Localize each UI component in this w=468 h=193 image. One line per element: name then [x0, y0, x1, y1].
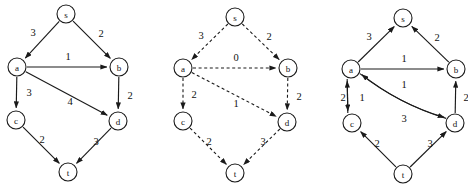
- node-graph-3-s[interactable]: s: [394, 9, 412, 27]
- edge-weight-graph-1-a-d: 4: [67, 96, 73, 107]
- edge-graph-1-a-to-c: [16, 77, 17, 108]
- edge-graph-2-d-to-t: [244, 129, 280, 164]
- edge-weight-graph-3-t-d: 3: [427, 138, 432, 149]
- node-label-b: b: [117, 63, 122, 73]
- graph-figure: 32134223320212233212113223 sabcdtsabcdts…: [0, 0, 468, 193]
- node-label-d: d: [285, 118, 290, 128]
- node-graph-1-t[interactable]: t: [59, 163, 77, 181]
- edge-weight-graph-3-a-d: 3: [401, 113, 406, 124]
- edge-weight-graph-2-a-b: 0: [233, 52, 238, 63]
- node-label-d: d: [453, 119, 458, 129]
- node-graph-2-c[interactable]: c: [174, 112, 192, 130]
- edge-graph-1-s-to-b: [73, 21, 110, 58]
- edge-graph-1-a-to-d: [26, 72, 107, 116]
- edge-graph-3-a-to-s: [358, 27, 394, 62]
- node-label-d: d: [116, 117, 121, 127]
- edge-graph-2-s-to-a: [192, 24, 228, 59]
- node-label-a: a: [349, 65, 353, 75]
- edge-graph-1-b-to-d: [118, 77, 119, 109]
- edge-weight-graph-2-d-t: 3: [260, 136, 265, 147]
- node-label-c: c: [350, 119, 354, 129]
- edge-graph-3-b-to-s: [412, 26, 449, 62]
- edges-layer: [16, 21, 456, 167]
- edge-weight-graph-1-s-b: 2: [98, 28, 103, 39]
- edge-weight-graph-3-a-b: 1: [401, 53, 406, 64]
- node-label-c: c: [14, 116, 18, 126]
- edge-weights-layer: 32134223320212233212113223: [26, 27, 468, 149]
- node-label-b: b: [454, 65, 459, 75]
- node-graph-3-d[interactable]: d: [446, 114, 464, 132]
- edge-weight-graph-2-a-c: 2: [191, 89, 196, 100]
- edge-weight-graph-1-b-d: 2: [127, 90, 132, 101]
- edge-weight-graph-1-d-t: 3: [93, 136, 98, 147]
- edge-weight-graph-3-a-c: 1: [359, 92, 364, 103]
- edge-graph-3-a-to-c: [347, 79, 348, 111]
- node-graph-3-b[interactable]: b: [447, 60, 465, 78]
- node-label-b: b: [286, 64, 291, 74]
- node-graph-2-t[interactable]: t: [226, 164, 244, 182]
- node-graph-2-a[interactable]: a: [174, 59, 192, 77]
- node-graph-2-d[interactable]: d: [278, 113, 296, 131]
- edge-weight-graph-2-s-a: 3: [198, 30, 203, 41]
- edge-weight-graph-1-a-c: 3: [26, 87, 31, 98]
- node-label-c: c: [181, 117, 185, 127]
- node-label-a: a: [181, 64, 185, 74]
- edge-graph-2-b-to-d: [287, 78, 288, 110]
- node-graph-2-s[interactable]: s: [226, 8, 244, 26]
- node-label-s: s: [64, 10, 68, 20]
- edge-weight-graph-3-c-a: 2: [340, 92, 345, 103]
- edge-weight-graph-2-b-d: 2: [296, 91, 301, 102]
- node-graph-1-b[interactable]: b: [110, 58, 128, 76]
- graph-canvas: 32134223320212233212113223 sabcdtsabcdts…: [0, 0, 468, 193]
- edge-graph-3-d-to-b: [455, 81, 456, 113]
- node-label-a: a: [15, 63, 19, 73]
- node-label-s: s: [233, 13, 237, 23]
- edge-weight-graph-1-a-b: 1: [65, 51, 70, 62]
- edge-graph-2-a-to-d: [192, 73, 276, 117]
- node-graph-1-d[interactable]: d: [109, 112, 127, 130]
- node-graph-2-b[interactable]: b: [279, 59, 297, 77]
- edge-weight-graph-3-d-b: 2: [463, 92, 468, 103]
- node-label-s: s: [401, 14, 405, 24]
- edge-weight-graph-3-b-s: 2: [434, 32, 439, 43]
- nodes-layer: sabcdtsabcdtsabcdt: [7, 5, 465, 183]
- node-graph-3-t[interactable]: t: [394, 165, 412, 183]
- node-graph-3-a[interactable]: a: [342, 60, 360, 78]
- edge-weight-graph-2-s-b: 2: [266, 31, 271, 42]
- edge-weight-graph-3-d-a: 1: [401, 79, 406, 90]
- node-graph-3-c[interactable]: c: [343, 114, 361, 132]
- edge-weight-graph-3-a-s: 3: [366, 31, 371, 42]
- edge-graph-2-s-to-b: [242, 24, 279, 60]
- edge-weight-graph-1-s-a: 3: [30, 27, 35, 38]
- node-graph-1-s[interactable]: s: [57, 5, 75, 23]
- edge-weight-graph-3-t-c: 2: [374, 138, 379, 149]
- node-graph-1-c[interactable]: c: [7, 111, 25, 129]
- node-graph-1-a[interactable]: a: [8, 58, 26, 76]
- edge-weight-graph-1-c-t: 2: [39, 134, 44, 145]
- edge-weight-graph-2-c-t: 2: [206, 136, 211, 147]
- edge-weight-graph-2-a-d: 1: [233, 98, 238, 109]
